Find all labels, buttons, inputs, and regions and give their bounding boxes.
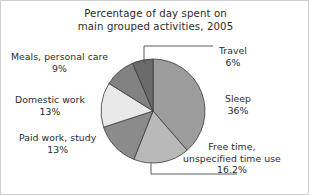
slice-label-travel: Travel 6% xyxy=(219,45,247,68)
slice-label-domestic-work-value: 13% xyxy=(15,106,85,118)
slice-label-domestic-work-name: Domestic work xyxy=(15,94,85,106)
chart-figure: Percentage of day spent on main grouped … xyxy=(0,0,309,195)
slice-label-free-time-name-line1: Free time, xyxy=(183,141,281,153)
slice-label-free-time-name-line2: unspecified time use xyxy=(183,153,281,165)
slice-label-meals-personal-care-value: 9% xyxy=(11,63,108,75)
slice-label-sleep-name: Sleep xyxy=(225,93,251,105)
slice-label-sleep-value: 36% xyxy=(225,105,251,117)
slice-label-free-time: Free time, unspecified time use 16.2% xyxy=(183,141,281,176)
slice-label-paid-work: Paid work, study 13% xyxy=(19,132,96,155)
slice-label-travel-value: 6% xyxy=(219,57,247,69)
slice-label-meals-personal-care-name: Meals, personal care xyxy=(11,51,108,63)
slice-label-sleep: Sleep 36% xyxy=(225,93,251,116)
slice-label-travel-name: Travel xyxy=(219,45,247,57)
slice-label-meals-personal-care: Meals, personal care 9% xyxy=(11,51,108,74)
slice-label-domestic-work: Domestic work 13% xyxy=(15,94,85,117)
slice-label-paid-work-name: Paid work, study xyxy=(19,132,96,144)
slice-label-free-time-value: 16.2% xyxy=(183,164,281,176)
slice-label-paid-work-value: 13% xyxy=(19,144,96,156)
